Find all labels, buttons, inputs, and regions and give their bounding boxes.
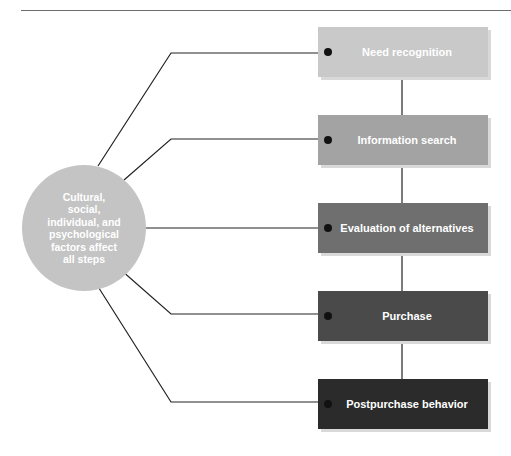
step-need-recognition: Need recognition	[318, 27, 488, 77]
step-label: Evaluation of alternatives	[332, 222, 473, 234]
factor-line-step-2	[124, 139, 328, 180]
connector-dot-icon	[324, 312, 332, 320]
step-label: Postpurchase behavior	[338, 398, 468, 410]
step-postpurchase-behavior: Postpurchase behavior	[318, 379, 488, 429]
factor-line-step-1	[98, 53, 328, 166]
connector-dot-icon	[324, 224, 332, 232]
influencing-factors-label: Cultural, social, individual, and psycho…	[32, 191, 136, 266]
step-purchase: Purchase	[318, 291, 488, 341]
connector-dot-icon	[324, 400, 332, 408]
step-information-search: Information search	[318, 115, 488, 165]
step-label: Need recognition	[354, 46, 452, 58]
factor-line-step-5	[97, 285, 328, 402]
step-evaluation-of-alternatives: Evaluation of alternatives	[318, 203, 488, 253]
connector-dot-icon	[324, 48, 332, 56]
factor-line-step-4	[121, 270, 328, 314]
influencing-factors-circle: Cultural, social, individual, and psycho…	[22, 165, 146, 291]
step-label: Purchase	[374, 310, 432, 322]
step-label: Information search	[349, 134, 456, 146]
connector-dot-icon	[324, 136, 332, 144]
